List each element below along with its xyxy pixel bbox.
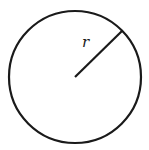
diagram-svg: r <box>0 0 149 150</box>
circle-diagram: r <box>0 0 149 150</box>
radius-label: r <box>82 33 90 51</box>
